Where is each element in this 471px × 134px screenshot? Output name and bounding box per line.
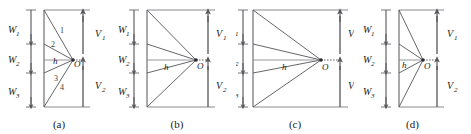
ray-number-4: 4 xyxy=(60,83,64,92)
panel-b-drawing: W 1 W 2 W 3 V 1 V 2 h O xyxy=(118,0,236,120)
label-w1-sub: 1 xyxy=(126,30,130,38)
label-v1-sub: 1 xyxy=(102,34,106,42)
panel-c-drawing: W 1 W 2 W 3 V 1 V 2 h O xyxy=(236,0,354,120)
label-origin: O xyxy=(424,61,431,71)
failure-rays xyxy=(253,10,321,107)
w-dimension-axis xyxy=(238,10,248,107)
label-w1-sub: 1 xyxy=(16,30,20,38)
caption-a: (a) xyxy=(0,118,118,130)
label-v2-sub: 2 xyxy=(223,86,227,94)
figure-slope-wedge-diagrams: W 1 W 2 W 3 V 1 V 2 h O 1 2 3 4 (a) xyxy=(0,0,471,134)
failure-rays xyxy=(147,10,196,107)
panel-a: W 1 W 2 W 3 V 1 V 2 h O 1 2 3 4 (a) xyxy=(0,0,118,134)
label-w2-sub: 2 xyxy=(236,60,239,68)
label-w2-sub: 2 xyxy=(371,60,375,68)
ray-number-1: 1 xyxy=(60,26,64,35)
label-h: h xyxy=(282,62,287,72)
label-w2-sub: 2 xyxy=(16,60,20,68)
label-w3-sub: 3 xyxy=(15,92,20,100)
label-v2-sub: 2 xyxy=(102,86,106,94)
w-dimension-axis xyxy=(129,10,139,107)
caption-b: (b) xyxy=(118,118,236,130)
panel-d: W 1 W 2 W 3 V 1 V 2 h O (d) xyxy=(354,0,471,134)
label-v1-sub: 1 xyxy=(223,34,227,42)
label-w3-sub: 3 xyxy=(236,92,239,100)
ray-number-3: 3 xyxy=(54,74,58,83)
panel-d-drawing: W 1 W 2 W 3 V 1 V 2 h O xyxy=(354,0,471,120)
panel-c: W 1 W 2 W 3 V 1 V 2 h O (c) xyxy=(236,0,354,134)
failure-rays xyxy=(44,10,73,107)
label-w3-sub: 3 xyxy=(125,92,130,100)
ray-number-2: 2 xyxy=(51,40,55,49)
slab-outline xyxy=(147,10,215,107)
label-h: h xyxy=(164,62,169,72)
failure-rays xyxy=(399,10,423,107)
label-origin: O xyxy=(74,59,81,69)
label-w1-sub: 1 xyxy=(371,30,375,38)
label-h: h xyxy=(402,60,407,70)
label-h: h xyxy=(53,56,58,66)
caption-c: (c) xyxy=(236,118,354,130)
label-v2-sub: 2 xyxy=(454,86,458,94)
label-w2-sub: 2 xyxy=(126,60,130,68)
caption-d: (d) xyxy=(354,118,471,130)
w-dimension-axis xyxy=(381,10,391,107)
slab-outline xyxy=(253,10,348,107)
label-origin: O xyxy=(197,61,204,71)
label-w1-sub: 1 xyxy=(236,30,239,38)
panel-b: W 1 W 2 W 3 V 1 V 2 h O (b) xyxy=(118,0,236,134)
label-v1-sub: 1 xyxy=(454,34,458,42)
panel-a-drawing: W 1 W 2 W 3 V 1 V 2 h O 1 2 3 4 xyxy=(0,0,118,120)
label-origin: O xyxy=(322,62,329,72)
label-w3-sub: 3 xyxy=(370,92,375,100)
w-dimension-axis xyxy=(26,10,36,107)
